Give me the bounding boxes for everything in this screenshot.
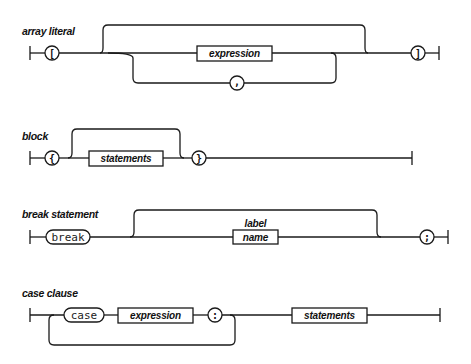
svg-text::: : xyxy=(212,310,218,321)
diagram-array-literal: array literal [ expression , ] xyxy=(22,25,439,90)
svg-text:statements: statements xyxy=(304,310,355,321)
diagram-block: block { statements } xyxy=(22,129,412,166)
svg-text:[: [ xyxy=(49,48,55,59)
semicolon-terminal: ; xyxy=(420,230,434,244)
railroad-diagrams: array literal [ expression , ] xyxy=(0,0,471,364)
close-brace-terminal: } xyxy=(192,151,206,165)
colon-terminal: : xyxy=(208,308,222,322)
svg-text:}: } xyxy=(196,153,202,164)
label-caption: label xyxy=(245,218,267,229)
svg-text:,: , xyxy=(234,77,240,88)
rule-title: case clause xyxy=(22,287,78,299)
svg-text:]: ] xyxy=(415,48,421,59)
expression-nonterminal: expression xyxy=(118,308,193,323)
diagram-break-statement: break statement break label name ; xyxy=(22,208,448,244)
svg-text:case: case xyxy=(71,309,98,322)
comma-separator-terminal: , xyxy=(230,76,244,90)
svg-text:name: name xyxy=(243,232,269,243)
svg-text:expression: expression xyxy=(209,48,260,59)
svg-text:break: break xyxy=(51,231,84,244)
open-brace-terminal: { xyxy=(45,151,59,165)
rule-title: break statement xyxy=(22,208,99,220)
svg-text:expression: expression xyxy=(130,310,181,321)
statements-nonterminal: statements xyxy=(89,151,163,166)
svg-text:statements: statements xyxy=(101,153,152,164)
diagram-case-clause: case clause case expression : statements xyxy=(22,287,440,345)
statements-nonterminal: statements xyxy=(292,308,367,323)
expression-nonterminal: expression xyxy=(197,46,272,61)
close-bracket-terminal: ] xyxy=(411,46,425,60)
case-keyword-terminal: case xyxy=(64,308,104,322)
rule-title: array literal xyxy=(22,25,76,37)
svg-text:{: { xyxy=(49,153,55,164)
rule-title: block xyxy=(22,130,49,142)
open-bracket-terminal: [ xyxy=(45,46,59,60)
break-keyword-terminal: break xyxy=(46,230,90,244)
name-nonterminal: name xyxy=(233,230,278,244)
svg-text:;: ; xyxy=(424,232,430,243)
